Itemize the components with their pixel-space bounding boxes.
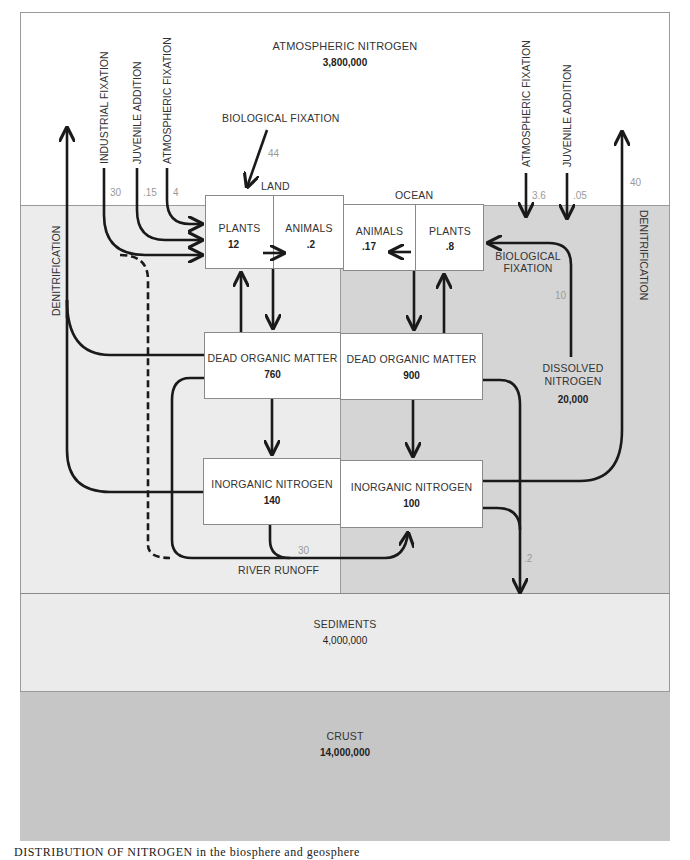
ocean-juvenile-addition-value: .05: [573, 190, 587, 201]
land-inorganic-value: 140: [203, 495, 341, 506]
river-runoff-label: RIVER RUNOFF: [238, 564, 319, 576]
land-atmospheric-fixation-label: ATMOSPHERIC FIXATION: [161, 37, 173, 164]
land-atmospheric-fixation-value: 4: [173, 187, 179, 198]
ocean-animals-label: ANIMALS: [344, 225, 415, 237]
land-juvenile-addition-value: .15: [143, 187, 157, 198]
ocean-inorganic-label: INORGANIC NITROGEN: [340, 481, 483, 493]
ocean-plants-value: .8: [416, 241, 484, 252]
ocean-denitrification-value: 40: [630, 177, 641, 188]
land-inorganic-label: INORGANIC NITROGEN: [203, 478, 341, 490]
land-industrial-fixation-value: 30: [110, 187, 121, 198]
land-plants-value: 12: [206, 239, 261, 250]
sediments-label: SEDIMENTS: [20, 618, 670, 630]
ocean-denitrification-label: DENITRIFICATION: [638, 210, 650, 300]
land-animals-value: .2: [286, 239, 336, 250]
ocean-biological-fixation-line1: BIOLOGICAL: [492, 250, 564, 262]
ocean-heading: OCEAN: [395, 189, 433, 201]
land-plants-label: PLANTS: [206, 222, 273, 234]
land-biological-fixation-label: BIOLOGICAL FIXATION: [222, 112, 340, 124]
dissolved-nitrogen-label: DISSOLVED NITROGEN: [538, 362, 608, 388]
ocean-atmospheric-fixation-label: ATMOSPHERIC FIXATION: [520, 40, 532, 167]
ocean-animals-value: .17: [344, 241, 394, 252]
land-heading: LAND: [261, 180, 290, 192]
ocean-biological-fixation-label: BIOLOGICAL FIXATION: [492, 250, 564, 274]
ocean-biological-fixation-value: 10: [555, 290, 566, 301]
ocean-dead-organic-label: DEAD ORGANIC MATTER: [340, 353, 483, 365]
sediments-value: 4,000,000: [20, 635, 670, 646]
dissolved-nitrogen-line1: DISSOLVED: [538, 362, 608, 375]
ocean-inorganic-value: 100: [340, 498, 483, 509]
land-denitrification-label: DENITRIFICATION: [50, 226, 62, 316]
land-industrial-fixation-label: INDUSTRIAL FIXATION: [98, 51, 110, 164]
land-juvenile-addition-label: JUVENILE ADDITION: [131, 61, 143, 164]
dissolved-nitrogen-value: 20,000: [538, 394, 608, 405]
atmospheric-nitrogen-label: ATMOSPHERIC NITROGEN: [0, 40, 690, 52]
figure-caption: DISTRIBUTION OF NITROGEN in the biospher…: [14, 845, 360, 860]
ocean-plants-label: PLANTS: [416, 225, 484, 237]
dissolved-nitrogen-line2: NITROGEN: [538, 375, 608, 388]
land-animals-label: ANIMALS: [274, 222, 344, 234]
ocean-biological-fixation-line2: FIXATION: [492, 262, 564, 274]
land-biological-fixation-value: 44: [268, 148, 279, 159]
crust-value: 14,000,000: [20, 747, 670, 758]
crust-label: CRUST: [20, 730, 670, 742]
land-dead-organic-label: DEAD ORGANIC MATTER: [204, 352, 341, 364]
river-runoff-value: 30: [298, 545, 309, 556]
ocean-atmospheric-fixation-value: 3.6: [532, 190, 546, 201]
ocean-dead-organic-value: 900: [340, 370, 483, 381]
sediment-deposit-value: .2: [524, 553, 532, 564]
land-dead-organic-value: 760: [204, 369, 341, 380]
ocean-juvenile-addition-label: JUVENILE ADDITION: [561, 64, 573, 167]
